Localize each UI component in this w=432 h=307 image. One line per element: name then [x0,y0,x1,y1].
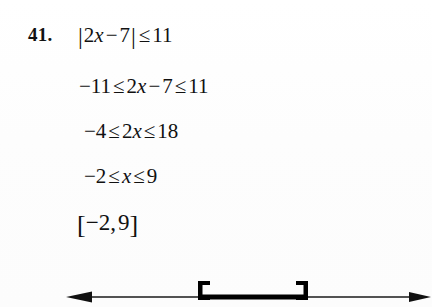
line2-constant: 7 [162,74,173,98]
absolute-value-bar-open: | [77,24,84,48]
line2-relation-left: ≤ [111,76,127,97]
line1-bound: 11 [152,23,172,47]
problem-number-label: 41. [28,24,53,46]
arrow-right-icon [409,292,431,302]
line2-upper-bound: 11 [188,74,208,98]
line3-relation-right: ≤ [142,121,158,142]
interval-comma: , [110,210,116,235]
line2-variable: x [137,74,146,98]
line4-lower-bound: −2 [84,164,106,188]
math-line-1: |2x−7|≤11 [77,24,173,48]
interval-bracket-open: [ [77,212,86,238]
absolute-value-bar-close: | [130,24,137,48]
math-line-2: −11≤2x−7≤11 [79,76,209,97]
line3-lower-bound: −4 [84,119,106,143]
arrow-left-icon [66,292,92,303]
line1-coefficient: 2 [84,23,95,47]
textbook-page: 41. |2x−7|≤11 −11≤2x−7≤11 −4≤2x≤18 −2≤x≤… [0,0,432,307]
line3-variable: x [132,119,141,143]
interval-lower-bound: −2 [86,210,110,235]
line2-lower-bound: −11 [79,74,111,98]
line3-coefficient: 2 [122,119,133,143]
line4-relation-right: ≤ [131,166,147,187]
line4-upper-bound: 9 [147,164,158,188]
line1-constant: 7 [119,23,130,47]
math-line-5-interval-notation: [−2,9] [77,211,138,238]
line1-minus-operator: − [106,23,118,47]
math-line-4: −2≤x≤9 [84,166,157,187]
math-line-3: −4≤2x≤18 [84,121,178,142]
left-closed-bracket-icon [198,281,210,300]
line3-upper-bound: 18 [157,119,178,143]
line1-relation-operator: ≤ [137,25,153,46]
line4-relation-left: ≤ [106,166,122,187]
paper-background [0,0,432,307]
line2-relation-right: ≤ [173,76,189,97]
line3-relation-left: ≤ [106,121,122,142]
number-line-graph [0,270,432,307]
interval-bracket-close: ] [129,212,138,238]
line2-minus-operator: − [148,74,160,98]
interval-upper-bound: 9 [118,210,130,235]
line4-variable: x [122,164,131,188]
line1-variable: x [94,23,103,47]
right-closed-bracket-icon [296,281,308,300]
line2-coefficient: 2 [127,74,138,98]
